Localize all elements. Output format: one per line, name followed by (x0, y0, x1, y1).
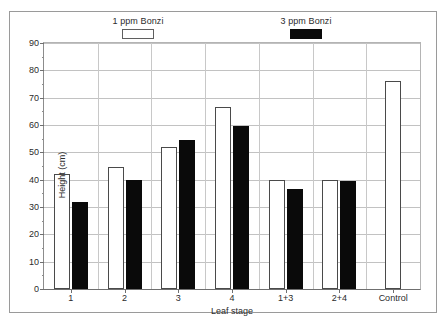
bar-black (340, 181, 356, 289)
bar-black (287, 189, 303, 289)
y-axis-tick-label: 40 (29, 175, 39, 185)
bar-white (385, 81, 401, 289)
legend-label: 3 ppm Bonzi (236, 16, 376, 27)
category-separator (98, 43, 99, 289)
plot-area: 0102030405060708090 12341+32+4Control He… (43, 42, 421, 290)
bar-group: 1+3 (259, 43, 313, 289)
category-separator (259, 43, 260, 289)
x-axis-tick-mark (393, 289, 394, 293)
bar-group: 2+4 (313, 43, 367, 289)
bars-layer: 12341+32+4Control (44, 43, 420, 289)
x-axis-tick-label: 4 (205, 293, 259, 303)
bar-white (269, 180, 285, 289)
x-axis-tick-mark (71, 289, 72, 293)
bar-black (179, 140, 195, 289)
bar-group: 1 (44, 43, 98, 289)
x-axis-tick-label: 2 (98, 293, 152, 303)
y-axis-tick-label: 90 (29, 38, 39, 48)
bar-group: Control (366, 43, 420, 289)
bar-chart-figure: 1 ppm Bonzi 3 ppm Bonzi 0102030405060708… (0, 0, 446, 324)
y-axis-tick-mark (40, 289, 44, 290)
legend-swatch-white (122, 29, 154, 39)
x-axis-tick-label: 1 (44, 293, 98, 303)
legend-swatch-black (290, 29, 322, 39)
bar-white (322, 180, 338, 289)
y-axis-tick-label: 20 (29, 229, 39, 239)
bar-white (108, 167, 124, 289)
y-axis-label: Height (cm) (57, 135, 67, 215)
category-separator (313, 43, 314, 289)
y-axis-tick-label: 60 (29, 120, 39, 130)
y-axis-tick-label: 10 (29, 257, 39, 267)
x-axis-tick-label: 2+4 (313, 293, 367, 303)
x-axis-tick-label: 3 (151, 293, 205, 303)
bar-group: 3 (151, 43, 205, 289)
y-axis-tick-label: 70 (29, 93, 39, 103)
bar-black (126, 180, 142, 289)
x-axis-tick-mark (178, 289, 179, 293)
x-axis-tick-label: Control (366, 293, 420, 303)
bar-group: 4 (205, 43, 259, 289)
category-separator (151, 43, 152, 289)
bar-white (215, 107, 231, 289)
bar-black (233, 126, 249, 289)
y-axis-tick-label: 50 (29, 147, 39, 157)
x-axis-tick-mark (339, 289, 340, 293)
bar-white (161, 147, 177, 289)
x-axis-tick-label: 1+3 (259, 293, 313, 303)
legend-item-1-ppm-bonzi: 1 ppm Bonzi (68, 16, 208, 39)
y-axis-tick-label: 30 (29, 202, 39, 212)
x-axis-label: Leaf stage (43, 306, 421, 316)
y-axis-tick-label: 80 (29, 65, 39, 75)
bar-black (72, 202, 88, 289)
category-separator (205, 43, 206, 289)
bar-group: 2 (98, 43, 152, 289)
x-axis-tick-mark (286, 289, 287, 293)
y-axis-tick-label: 0 (34, 284, 39, 294)
x-axis-tick-mark (232, 289, 233, 293)
x-axis-tick-mark (125, 289, 126, 293)
legend-item-3-ppm-bonzi: 3 ppm Bonzi (236, 16, 376, 39)
legend-label: 1 ppm Bonzi (68, 16, 208, 27)
category-separator (366, 43, 367, 289)
